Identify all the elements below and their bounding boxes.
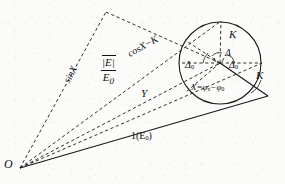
line-cos-x-minus-k <box>106 12 220 63</box>
delta0-left-sub: 0 <box>191 63 194 70</box>
unit-vector-text: 1(E <box>131 130 145 141</box>
vector-diagram-figure: O sinX cosX−K |E| E0 Y 1(E0) K K Δ Δ0 Δ0… <box>0 0 285 184</box>
label-delta: Δ <box>225 48 231 58</box>
label-origin: O <box>4 158 13 170</box>
label-delta0-left: Δ0 <box>185 60 194 71</box>
label-unit-vector: 1(E0) <box>131 131 152 142</box>
label-k-top: K <box>229 29 236 40</box>
field-ratio-denominator-sub: 0 <box>109 76 114 86</box>
label-field-ratio: |E| E0 <box>101 57 116 86</box>
field-ratio-numerator-text: |E| <box>102 56 115 68</box>
label-delta0-right: Δ0 <box>229 60 238 71</box>
line-upsilon <box>20 63 220 168</box>
label-upsilon: Y <box>141 88 147 99</box>
unit-vector-tail: ) <box>149 130 152 141</box>
line-radius-k-top <box>220 21 221 63</box>
delta0-right-sub: 0 <box>235 63 238 70</box>
label-k-right: K <box>256 70 263 81</box>
field-ratio-numerator: |E| <box>101 57 116 71</box>
line-sin-x <box>20 12 106 168</box>
phase-difference-sub-0: 0 <box>221 86 224 92</box>
line-lower-fan <box>20 63 262 168</box>
vertex-hatch-marks <box>214 58 224 62</box>
vector-overbar: |E| <box>102 57 115 69</box>
field-ratio-denominator: E0 <box>101 71 116 87</box>
label-phase-difference: X=φx−φ0 <box>191 83 224 93</box>
phase-difference-text: X=φ <box>191 82 208 92</box>
line-field-ratio <box>20 21 221 168</box>
arc-delta0-left <box>203 53 208 63</box>
phase-difference-mid: −φ <box>210 82 221 92</box>
